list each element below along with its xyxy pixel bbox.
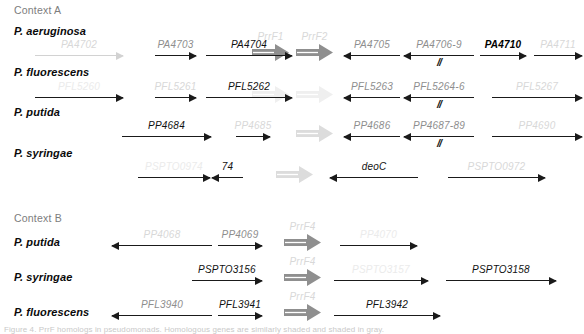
gene-label-row-pf-context-b-0: PFL3940 <box>141 299 183 310</box>
gene-label-row-pf-context-b-2: PFL3942 <box>366 299 408 310</box>
gene-arrow-head <box>433 312 441 320</box>
figure-caption: Figure 4. PrrF homologs in pseudomonads.… <box>4 325 384 334</box>
gene-arrow-head <box>111 312 119 320</box>
gene-arrow-shaft <box>334 315 440 316</box>
prrf-block-arrow-row-pf-context-b-0 <box>284 304 321 321</box>
gene-label-row-pf-context-b-1: PFL3941 <box>219 299 261 310</box>
gene-arrow-head <box>255 312 263 320</box>
gene-arrow-shaft <box>112 315 212 316</box>
prrf-label-row-pf-context-b-0: PrrF4 <box>290 291 316 302</box>
gene-arrow-row-pf-context-b-0 <box>112 311 212 321</box>
gene-arrow-row-pf-context-b-1 <box>218 311 262 321</box>
gene-arrow-row-pf-context-b-2 <box>334 311 440 321</box>
